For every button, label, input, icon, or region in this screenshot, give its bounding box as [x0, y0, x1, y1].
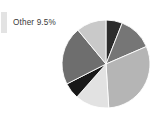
pie-chart — [61, 19, 151, 109]
pie-slice-group — [62, 20, 150, 108]
legend-callout: Other 9.5% — [1, 12, 63, 33]
pie-chart-figure: Other 9.5% — [0, 0, 158, 120]
legend-label-other: Other 9.5% — [7, 17, 56, 28]
pie-svg — [61, 19, 151, 109]
